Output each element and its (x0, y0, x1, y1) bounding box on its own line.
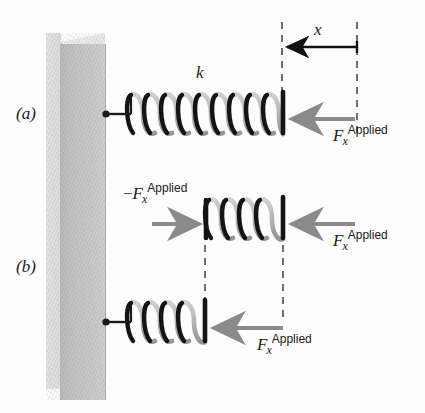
wall-front-face (60, 44, 106, 400)
panel-label-b: (b) (16, 258, 36, 275)
spring-b-middle-coils (205, 197, 283, 239)
force-label-b-applied-left: −FxApplied (123, 182, 187, 205)
force-label-a-superscript: Applied (348, 123, 388, 137)
force-label-b-bottom-superscript: Applied (272, 332, 312, 346)
force-label-b-applied-bottom: FxApplied (257, 333, 312, 356)
force-label-b-applied-right: FxApplied (333, 229, 388, 252)
displacement-arrow-x (287, 41, 357, 53)
spring-b-bottom-coils (127, 300, 205, 342)
spring-force-figure: (a) (b) k x FxApplied −FxApplied FxAppli… (0, 0, 425, 413)
spring-a-coils (127, 92, 283, 134)
force-label-b-right-superscript: Applied (348, 228, 388, 242)
dashed-reference-lines-panel-b (205, 232, 283, 322)
wall-side-face (46, 33, 61, 389)
spring-b-bottom-anchor (102, 303, 131, 326)
force-label-a-applied: FxApplied (333, 124, 388, 147)
force-label-b-left-sign: − (123, 184, 133, 203)
spring-constant-label: k (196, 64, 204, 81)
force-label-b-left-superscript: Applied (147, 181, 187, 195)
panel-label-a: (a) (16, 105, 36, 122)
displacement-label: x (314, 21, 322, 38)
spring-a-anchor (102, 95, 131, 118)
